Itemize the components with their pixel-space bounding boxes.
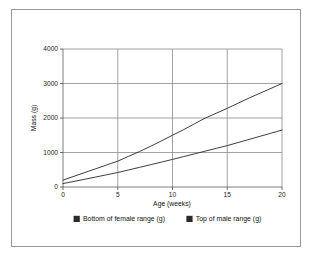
x-axis-tick-labels: 05101520 [61, 191, 286, 198]
x-tick-label: 0 [61, 191, 65, 198]
chart-figure: 01000200030004000 05101520 Mass (g) Age … [0, 0, 312, 256]
y-axis-tick-labels: 01000200030004000 [43, 45, 58, 190]
line-chart-svg: 01000200030004000 05101520 Mass (g) Age … [0, 0, 312, 256]
x-tick-label: 15 [224, 191, 232, 198]
x-tick-label: 10 [169, 191, 177, 198]
y-tick-label: 2000 [43, 114, 58, 121]
y-tick-label: 4000 [43, 45, 58, 52]
legend-item-label: Top of male range (g) [196, 215, 262, 223]
y-tick-label: 1000 [43, 149, 58, 156]
legend-swatch-icon [186, 216, 192, 222]
y-axis-title: Mass (g) [30, 105, 38, 131]
chart-plot-container: 01000200030004000 05101520 Mass (g) Age … [0, 0, 312, 256]
x-axis-title: Age (weeks) [153, 200, 191, 208]
chart-legend: Bottom of female range (g)Top of male ra… [74, 215, 262, 223]
legend-swatch-icon [74, 216, 80, 222]
y-tick-label: 0 [54, 183, 58, 190]
y-tick-label: 3000 [43, 80, 58, 87]
legend-item-label: Bottom of female range (g) [83, 215, 165, 223]
x-tick-label: 5 [116, 191, 120, 198]
x-tick-label: 20 [278, 191, 286, 198]
